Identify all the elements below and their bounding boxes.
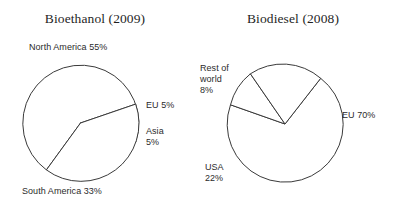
- label-eu-biodiesel: EU 70%: [342, 110, 375, 121]
- label-south-america: South America 33%: [22, 186, 102, 197]
- label-eu-bioethanol: EU 5%: [146, 100, 174, 111]
- pie-chart-figure: Bioethanol (2009) Biodiesel (2008) North…: [0, 0, 398, 207]
- pie-charts-canvas: [0, 0, 398, 207]
- bioethanol-pie: [23, 65, 139, 181]
- label-rest-of-world: Rest of world 8%: [200, 63, 229, 96]
- biodiesel-pie: [227, 64, 343, 182]
- label-usa: USA 22%: [205, 162, 224, 184]
- label-asia: Asia 5%: [146, 126, 164, 148]
- label-north-america: North America 55%: [29, 42, 107, 53]
